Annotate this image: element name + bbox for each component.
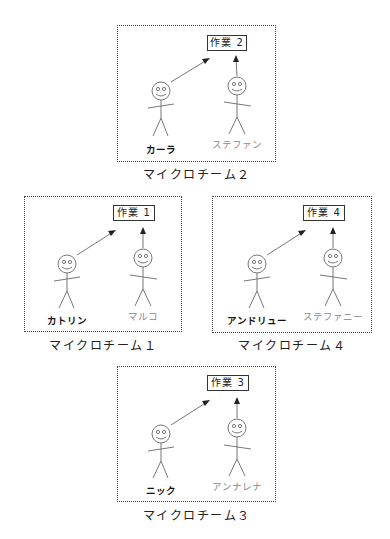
- team-label: マイクロチーム３: [117, 506, 276, 523]
- arrow-head-icon: [233, 55, 239, 62]
- micro-team-2: 作業 2 カーラ ステファン マイクロチーム２: [117, 25, 276, 185]
- arrow-head-icon: [298, 230, 306, 236]
- arrow-head-icon: [202, 400, 210, 406]
- team-label: マイクロチーム４: [212, 336, 372, 353]
- team-label: マイクロチーム２: [117, 165, 276, 182]
- member-name: ステファニー: [298, 309, 368, 323]
- member-name: マルコ: [108, 309, 178, 323]
- micro-team-1: 作業 1 カトリン マルコ マイクロチーム１: [24, 196, 182, 356]
- team-label: マイクロチーム１: [24, 336, 182, 353]
- arrow-head-icon: [140, 227, 146, 234]
- member-name: アンナレナ: [202, 479, 272, 493]
- arrow-head-icon: [202, 58, 210, 64]
- stick-figure-lead-icon: [148, 82, 174, 136]
- lead-name: カーラ: [126, 142, 196, 156]
- stick-figure-lead-icon: [54, 255, 80, 308]
- stick-figure-member-icon: [224, 77, 251, 134]
- stick-figure-member-icon: [224, 419, 251, 476]
- stick-figure-member-icon: [320, 249, 347, 306]
- lead-name: カトリン: [32, 313, 102, 327]
- stick-figure-lead-icon: [148, 425, 174, 478]
- lead-name: ニック: [126, 483, 196, 497]
- arrow-head-icon: [234, 397, 240, 404]
- lead-name: アンドリュー: [222, 313, 292, 327]
- stick-figure-lead-icon: [244, 255, 270, 308]
- micro-team-4: 作業 4 アンドリュー ステファニー マイクロチーム４: [212, 196, 372, 356]
- arrow-head-icon: [330, 227, 336, 234]
- micro-team-3: 作業 3 ニック アンナレナ マイクロチーム３: [117, 366, 276, 526]
- stick-figure-member-icon: [130, 249, 157, 306]
- arrow-head-icon: [108, 230, 116, 236]
- member-name: ステファン: [202, 137, 272, 151]
